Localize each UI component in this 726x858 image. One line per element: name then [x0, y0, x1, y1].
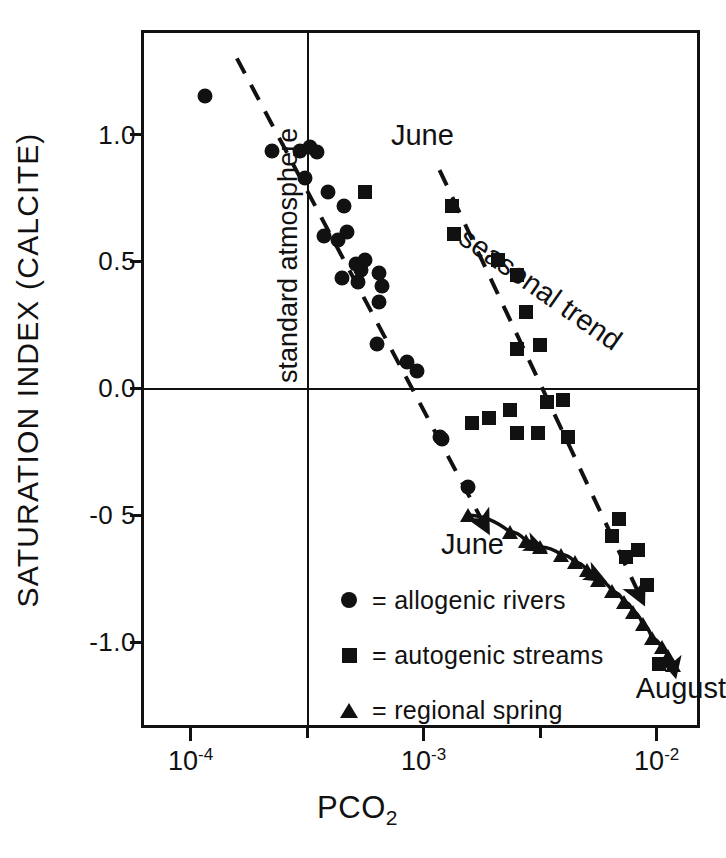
x-tick-mark-minor	[306, 725, 309, 738]
annotation-seasonal-trend: seasonal trend	[454, 221, 629, 357]
zero-saturation-line	[144, 388, 697, 390]
data-point-circle	[461, 480, 476, 495]
legend: = allogenic rivers= autogenic streams= r…	[336, 583, 604, 748]
data-point-square	[533, 338, 547, 352]
legend-item-triangle: = regional spring	[336, 693, 604, 727]
x-tick-mantissa: 10	[401, 746, 431, 776]
data-point-square	[358, 185, 372, 199]
standard-atmosphere-line	[307, 33, 309, 725]
standard-atmosphere-label: standard atmosphere	[273, 128, 304, 383]
data-point-circle	[374, 278, 389, 293]
data-point-square	[482, 411, 496, 425]
data-point-circle	[358, 253, 373, 268]
data-point-square	[556, 393, 570, 407]
y-axis-title: SATURATION INDEX (CALCITE)	[6, 0, 50, 740]
x-tick-mantissa: 10	[168, 746, 198, 776]
data-point-square	[605, 529, 619, 543]
legend-symbol-circle-icon	[336, 592, 362, 608]
x-tick-label: 10-2	[634, 745, 679, 777]
x-axis-title: PCO2	[0, 790, 715, 830]
x-tick-mark-major	[189, 725, 192, 741]
data-point-square	[519, 305, 533, 319]
y-tick-label: 0.0	[98, 373, 136, 404]
data-point-square	[540, 395, 554, 409]
y-tick-label: 1.0	[98, 119, 136, 150]
triangle-glyph-icon	[340, 703, 358, 718]
circle-glyph-icon	[341, 592, 357, 608]
legend-symbol-triangle-icon	[336, 703, 362, 718]
legend-item-label: = autogenic streams	[372, 641, 604, 670]
data-point-square	[531, 426, 545, 440]
plot-area: 1.00.50.0-0 5-1.0 10-410-310-2 June seas…	[144, 33, 697, 725]
data-point-square	[612, 512, 626, 526]
data-point-circle	[309, 145, 324, 160]
data-point-triangle	[665, 658, 681, 672]
data-point-triangle	[532, 540, 548, 554]
legend-item-circle: = allogenic rivers	[336, 583, 604, 617]
x-tick-mark-major	[655, 725, 658, 741]
data-point-circle	[409, 363, 424, 378]
square-glyph-icon	[342, 648, 357, 663]
legend-item-label: = regional spring	[372, 696, 563, 725]
data-point-square	[561, 430, 575, 444]
data-point-circle	[435, 432, 450, 447]
x-tick-exponent: -4	[198, 745, 213, 764]
x-tick-mantissa: 10	[634, 746, 664, 776]
data-point-circle	[339, 225, 354, 240]
data-point-circle	[197, 89, 212, 104]
data-point-square	[510, 342, 524, 356]
data-point-circle	[370, 336, 385, 351]
data-point-square	[640, 578, 654, 592]
plot-frame: 1.00.50.0-0 5-1.0 10-410-310-2 June seas…	[141, 30, 700, 728]
data-point-square	[503, 403, 517, 417]
data-point-triangle	[460, 508, 476, 522]
x-tick-label: 10-4	[168, 745, 213, 777]
data-point-circle	[321, 184, 336, 199]
legend-item-label: = allogenic rivers	[372, 586, 566, 615]
data-point-square	[631, 543, 645, 557]
data-point-circle	[335, 270, 350, 285]
x-tick-label: 10-3	[401, 745, 446, 777]
data-point-triangle	[635, 617, 651, 631]
y-axis-title-text: SATURATION INDEX (CALCITE)	[11, 132, 45, 607]
x-tick-exponent: -2	[664, 745, 679, 764]
data-point-circle	[337, 198, 352, 213]
annotation-august: August	[636, 672, 726, 705]
legend-item-square: = autogenic streams	[336, 638, 604, 672]
data-point-square	[445, 199, 459, 213]
annotation-june-lower: June	[441, 528, 504, 561]
x-axis-title-subscript: 2	[386, 806, 398, 829]
data-point-square	[510, 426, 524, 440]
data-point-circle	[316, 229, 331, 244]
x-axis-title-text: PCO	[317, 790, 386, 825]
data-point-circle	[372, 295, 387, 310]
y-tick-label: -0 5	[89, 500, 136, 531]
annotation-june-upper: June	[391, 119, 454, 152]
legend-symbol-square-icon	[336, 648, 362, 663]
data-point-square	[465, 416, 479, 430]
y-tick-label: 0.5	[98, 246, 136, 277]
data-point-triangle	[502, 525, 518, 539]
y-tick-label: -1.0	[89, 627, 136, 658]
